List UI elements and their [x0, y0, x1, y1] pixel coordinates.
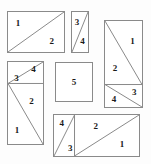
piece-label: 2: [93, 122, 98, 131]
piece-label: 4: [80, 36, 85, 45]
piece-label: 3: [75, 18, 80, 27]
piece-label: 1: [120, 139, 125, 148]
piece-top-left-rectangle: 1 2: [7, 11, 65, 53]
piece-label: 4: [31, 65, 36, 74]
piece-label: 4: [112, 95, 117, 104]
piece-top-narrow-rectangle: 3 4: [71, 11, 89, 53]
piece-label: 3: [14, 73, 19, 82]
piece-label: 3: [68, 143, 73, 152]
piece-label: 2: [29, 97, 34, 106]
piece-center-square: 5: [55, 62, 93, 102]
piece-bottom-rectangle: 4 3 2 1: [53, 114, 140, 157]
piece-left-tall-rectangle: 3 4 2 1: [7, 61, 44, 145]
piece-label: 2: [113, 64, 118, 73]
piece-label: 1: [16, 19, 21, 28]
piece-label: 1: [15, 126, 20, 135]
piece-label: 2: [49, 36, 54, 45]
piece-label: 1: [130, 36, 135, 45]
piece-label: 5: [72, 78, 77, 87]
piece-right-tall-rectangle: 1 2 3 4: [104, 20, 143, 108]
piece-label: 3: [132, 87, 137, 96]
piece-label: 4: [59, 119, 64, 128]
pieces-diagram-canvas: 1 2 3 4 1 2 3 4 3 4 2 1 5: [0, 0, 151, 164]
